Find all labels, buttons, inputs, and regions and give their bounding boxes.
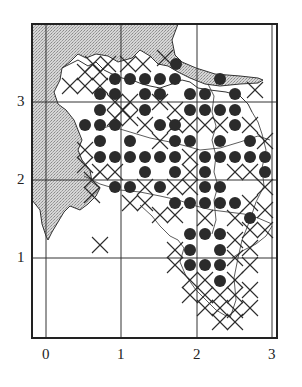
cross-marker [182, 272, 198, 288]
dot-marker [214, 151, 226, 163]
dot-marker [199, 197, 211, 209]
dot-marker [184, 104, 196, 116]
cross-marker [242, 222, 258, 238]
dot-marker [124, 73, 136, 85]
dot-marker [169, 73, 181, 85]
dot-marker [139, 73, 151, 85]
dot-marker [199, 259, 211, 271]
cross-marker [227, 302, 243, 318]
cross-marker [242, 257, 258, 273]
cross-marker [182, 179, 198, 195]
cross-marker [197, 272, 213, 288]
dot-marker [154, 88, 166, 100]
cross-marker [197, 210, 213, 226]
dot-marker [214, 135, 226, 147]
cross-marker [212, 314, 228, 330]
x-tick-3: 3 [268, 347, 276, 362]
dot-marker [214, 181, 226, 193]
cross-marker [227, 210, 243, 226]
dot-marker [94, 88, 106, 100]
dot-marker [184, 228, 196, 240]
dot-marker [214, 244, 226, 256]
dot-marker [199, 88, 211, 100]
dot-marker [109, 151, 121, 163]
shaded-land-region [32, 24, 263, 240]
cross-marker [122, 110, 138, 126]
dot-marker [109, 88, 121, 100]
dot-marker [169, 135, 181, 147]
cross-marker [182, 287, 198, 303]
dot-marker [199, 166, 211, 178]
dot-marker [94, 135, 106, 147]
dot-marker [139, 166, 151, 178]
x-tick-2: 2 [193, 347, 201, 362]
cross-marker [167, 102, 183, 118]
dot-marker [259, 151, 271, 163]
cross-marker [182, 149, 198, 165]
cross-marker [62, 78, 78, 94]
dot-marker [139, 104, 151, 116]
dot-marker [214, 228, 226, 240]
dot-marker [139, 88, 151, 100]
dot-marker [244, 212, 256, 224]
cross-marker [197, 287, 213, 303]
cross-marker [135, 56, 151, 72]
dot-marker [184, 88, 196, 100]
cross-marker [77, 142, 93, 158]
cross-marker [257, 222, 273, 238]
dot-marker [94, 151, 106, 163]
cross-marker [137, 195, 153, 211]
dot-marker [229, 88, 241, 100]
dot-marker [154, 151, 166, 163]
dot-marker [169, 151, 181, 163]
dot-marker [184, 135, 196, 147]
cross-marker [167, 179, 183, 195]
dot-marker [199, 151, 211, 163]
dot-marker [229, 104, 241, 116]
x-tick-1: 1 [117, 347, 125, 362]
boundary-line [96, 126, 270, 150]
dot-marker [199, 104, 211, 116]
cross-marker [167, 257, 183, 273]
dot-marker [229, 151, 241, 163]
dot-marker [124, 151, 136, 163]
dot-marker [169, 166, 181, 178]
cross-marker [212, 287, 228, 303]
dot-marker [109, 73, 121, 85]
y-tick-1: 1 [17, 250, 25, 265]
cross-marker [242, 164, 258, 180]
dot-marker [124, 135, 136, 147]
dot-marker [79, 119, 91, 131]
cross-marker [167, 207, 183, 223]
dot-marker [259, 166, 271, 178]
dot-marker [94, 104, 106, 116]
grid-map [0, 0, 302, 387]
cross-marker [247, 82, 263, 98]
dot-marker [214, 104, 226, 116]
cross-marker [182, 164, 198, 180]
y-tick-3: 3 [17, 94, 25, 109]
dot-marker [154, 181, 166, 193]
cross-marker [257, 202, 273, 218]
cross-marker [197, 117, 213, 133]
dot-marker [94, 119, 106, 131]
dot-marker [184, 259, 196, 271]
cross-marker [92, 237, 108, 253]
cross-marker [227, 232, 243, 248]
dot-marker [214, 197, 226, 209]
dot-marker [214, 73, 226, 85]
y-tick-2: 2 [17, 172, 25, 187]
cross-marker [242, 240, 258, 256]
cross-marker [122, 195, 138, 211]
cross-marker [197, 300, 213, 316]
cross-marker [152, 207, 168, 223]
cross-marker [227, 314, 243, 330]
cross-marker [167, 242, 183, 258]
dot-marker [244, 135, 256, 147]
dot-marker [214, 259, 226, 271]
x-tick-0: 0 [42, 347, 50, 362]
dot-marker [169, 197, 181, 209]
dot-marker [199, 181, 211, 193]
cross-marker [100, 56, 116, 72]
dot-marker [109, 119, 121, 131]
